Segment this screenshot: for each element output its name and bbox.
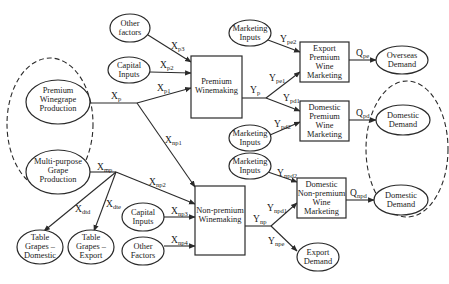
node-label: Grapes –: [76, 242, 107, 251]
edge-label-ypd1: Ypd1: [283, 93, 300, 104]
node-label: Wine: [313, 198, 331, 207]
node-label: Premium: [309, 112, 340, 121]
node-multi-purpose-grape-production: Multi-purpose Grape Production: [26, 150, 90, 194]
node-overseas-demand: Overseas Demand: [376, 46, 428, 74]
node-label: Domestic: [24, 251, 56, 260]
edge-label-qpd: Qpd: [356, 108, 370, 119]
node-label: Winemaking: [195, 86, 239, 95]
edge-label-ype2: Ype2: [280, 34, 296, 45]
node-label: Marketing: [304, 207, 340, 216]
node-label: Marketing: [233, 24, 269, 33]
edge-label-xdtd: Xdtd: [75, 204, 91, 215]
wine-industry-flow-diagram: Other factors Capital Inputs Premium Win…: [0, 0, 449, 284]
node-label: Export: [307, 248, 330, 257]
node-label: Demand: [389, 120, 418, 129]
node-label: Non-premium: [298, 189, 346, 198]
node-label: Production: [40, 175, 78, 184]
node-marketing-inputs-export-premium: Marketing Inputs: [229, 20, 271, 46]
node-label: Export: [313, 44, 336, 53]
node-label: Production: [40, 104, 78, 113]
node-premium-winegrape-production: Premium Winegrape Production: [26, 80, 90, 124]
edge-label-xmp: Xmp: [97, 162, 113, 173]
node-label: Domestic: [305, 180, 337, 189]
node-label: Marketing: [233, 129, 269, 138]
node-label: Capital: [117, 61, 142, 70]
node-label: Table: [31, 233, 50, 242]
edge-label-xp2: Xp2: [160, 60, 173, 71]
node-label: Premium: [201, 77, 232, 86]
node-other-factors-bottom: Other Factors: [122, 237, 164, 265]
node-export-premium-wine-marketing: Export Premium Wine Marketing: [300, 42, 349, 82]
node-label: Grapes –: [25, 242, 56, 251]
node-table-grapes-domestic: Table Grapes – Domestic: [17, 230, 63, 264]
edge-label-xp1: Xp1: [157, 83, 170, 94]
node-label: Marketing: [307, 71, 343, 80]
edge-label-xp: Xp: [111, 91, 122, 102]
node-domestic-demand-premium: Domestic Demand: [376, 105, 430, 135]
edge-label-ynpd2: Ynpd2: [277, 168, 297, 179]
node-other-factors-top: Other factors: [110, 14, 150, 42]
node-label: Premium: [43, 86, 74, 95]
node-label: Wine: [316, 62, 334, 71]
node-marketing-inputs-domestic-non-premium: Marketing Inputs: [229, 153, 271, 179]
edge-label-ynp: Ynp: [253, 214, 267, 225]
node-label: Demand: [388, 60, 417, 69]
edge-label-xnp1: Xnp1: [165, 135, 182, 146]
edge-label-xnp2: Xnp2: [149, 177, 166, 188]
edge-label-ype1: Ype1: [269, 73, 285, 84]
node-label: Grape: [48, 166, 69, 175]
edge-label-xnp3: Xnp3: [171, 206, 188, 217]
edge-label-qpe: Qpe: [356, 48, 369, 59]
edge-label-ynpe: Ynpe: [268, 236, 284, 247]
edge-label-ypd2: Ypd2: [274, 119, 291, 130]
node-label: Inputs: [133, 217, 154, 226]
node-domestic-non-premium-wine-marketing: Domestic Non-premium Wine Marketing: [297, 178, 346, 218]
node-domestic-demand-non-premium: Domestic Demand: [374, 185, 428, 215]
edge-label-xdte: Xdte: [106, 199, 121, 210]
edge-label-qnpd: Qnpd: [350, 188, 367, 199]
node-export-demand: Export Demand: [297, 243, 339, 271]
node-label: Capital: [131, 208, 156, 217]
node-label: Multi-purpose: [34, 157, 82, 166]
node-label: Inputs: [240, 138, 261, 147]
node-non-premium-winemaking: Non-premium Winemaking: [195, 186, 245, 255]
node-capital-inputs-bottom: Capital Inputs: [122, 203, 164, 231]
node-label: Other: [133, 242, 152, 251]
node-label: Wine: [316, 121, 334, 130]
edge-label-xp3: Xp3: [171, 41, 185, 52]
node-label: Premium: [309, 53, 340, 62]
node-label: Factors: [131, 251, 156, 260]
node-label: factors: [119, 28, 142, 37]
node-label: Winegrape: [40, 95, 77, 104]
node-domestic-premium-wine-marketing: Domestic Premium Wine Marketing: [300, 101, 349, 141]
node-label: Table: [82, 233, 101, 242]
edge-label-ynpd1: Ynpd1: [267, 203, 287, 214]
node-label: Other: [120, 19, 139, 28]
node-label: Marketing: [233, 157, 269, 166]
node-label: Winemaking: [199, 215, 243, 224]
node-label: Inputs: [119, 70, 140, 79]
node-label: Non-premium: [196, 206, 244, 215]
node-table-grapes-export: Table Grapes – Export: [68, 230, 114, 264]
edge-label-yp: Yp: [250, 85, 261, 96]
node-label: Domestic: [387, 111, 419, 120]
node-label: Domestic: [308, 103, 340, 112]
node-label: Marketing: [307, 130, 343, 139]
node-premium-winemaking: Premium Winemaking: [191, 56, 242, 118]
node-capital-inputs-top: Capital Inputs: [108, 57, 150, 83]
node-label: Domestic: [385, 191, 417, 200]
node-marketing-inputs-domestic-premium: Marketing Inputs: [229, 125, 271, 151]
node-label: Export: [80, 251, 103, 260]
node-label: Demand: [304, 257, 333, 266]
node-label: Inputs: [240, 166, 261, 175]
node-label: Inputs: [240, 33, 261, 42]
node-label: Overseas: [387, 51, 418, 60]
node-label: Demand: [387, 200, 416, 209]
edge-label-xnp4: Xnp4: [171, 235, 188, 246]
